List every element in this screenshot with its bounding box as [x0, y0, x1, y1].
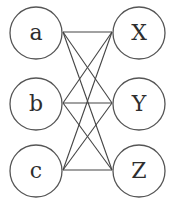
- node-label: X: [131, 20, 147, 45]
- node-label: c: [30, 158, 42, 183]
- node-Y: Y: [113, 78, 165, 130]
- edges: [63, 32, 112, 170]
- node-b: b: [10, 78, 62, 130]
- bipartite-graph: a b c X Y Z: [0, 0, 174, 201]
- node-a: a: [10, 7, 62, 59]
- node-Z: Z: [113, 145, 165, 197]
- node-label: Z: [131, 158, 146, 183]
- node-label: Y: [131, 91, 147, 116]
- node-label: a: [29, 20, 42, 45]
- node-c: c: [10, 145, 62, 197]
- node-label: b: [29, 91, 43, 116]
- node-X: X: [113, 7, 165, 59]
